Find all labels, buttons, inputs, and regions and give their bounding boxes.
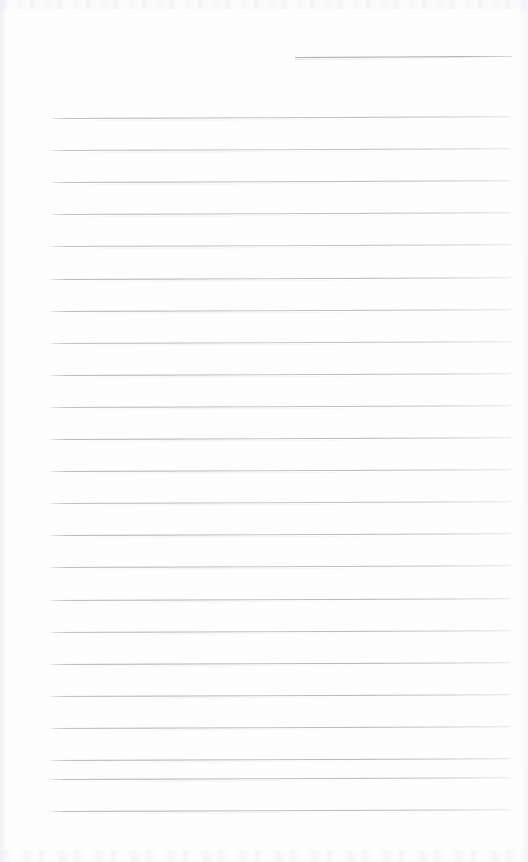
rule-line — [50, 501, 511, 504]
rule-line — [50, 662, 511, 665]
rule-line — [50, 213, 511, 216]
rule-line — [50, 245, 511, 248]
rule-line — [50, 726, 511, 729]
rule-line — [50, 469, 511, 472]
rule-line — [50, 566, 511, 569]
rule-line — [50, 180, 511, 183]
rule-line — [50, 694, 511, 697]
rule-line — [50, 758, 511, 761]
rule-line — [50, 277, 511, 280]
rule-line — [50, 405, 511, 408]
rule-line — [50, 630, 511, 633]
rule-line — [50, 777, 511, 780]
rule-line — [50, 148, 511, 151]
rule-line — [50, 809, 511, 812]
header-rule-line — [295, 56, 512, 58]
rule-line — [50, 341, 511, 344]
rule-line — [50, 534, 511, 537]
rule-line — [50, 373, 511, 376]
ruled-lines-layer — [0, 0, 528, 862]
rule-line — [50, 437, 511, 440]
rule-line — [50, 309, 511, 312]
rule-line — [50, 116, 511, 119]
scanned-page — [0, 0, 528, 862]
rule-line — [50, 598, 511, 601]
